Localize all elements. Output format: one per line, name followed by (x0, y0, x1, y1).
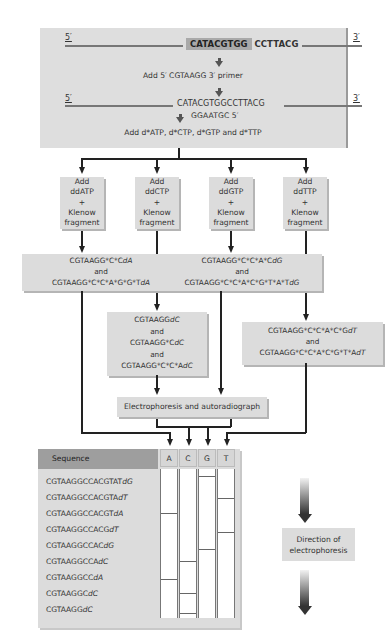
reaction-text: Add (283, 177, 327, 187)
template-strand-right (302, 45, 362, 47)
reaction-box-ddatp: Add ddATP + Klenow fragment (60, 177, 104, 229)
lane-t (217, 469, 235, 618)
direction-label: electrophoresis (289, 545, 347, 556)
down-arrow-icon (176, 117, 184, 123)
lane-g (198, 469, 216, 618)
and-label: and (162, 266, 322, 277)
template-panel: 5′ CATACGTGG CCTTACG 3′ Add 5′ CGTAAGG 3… (40, 28, 346, 148)
template-strand-right (284, 105, 362, 107)
band (180, 593, 196, 594)
lane-header-t: T (217, 449, 235, 467)
lane-c (179, 469, 197, 618)
sequence-header: Sequence (38, 449, 158, 469)
lane-a (160, 469, 178, 618)
down-arrow-icon (215, 61, 223, 67)
products-g-box: CGTAAGG*C*C*A*CdG and CGTAAGG*C*C*A*C*G*… (162, 254, 322, 291)
reaction-box-ddgtp: Add ddGTP + Klenow fragment (209, 177, 253, 229)
arrowhead-icon (205, 439, 211, 446)
arrowhead-icon (303, 314, 309, 321)
band (218, 498, 234, 499)
gel-sequence-row: CGTAAGGCCACGTdA (46, 509, 123, 518)
reaction-text: + (209, 198, 253, 208)
direction-arrow-shaft (300, 570, 309, 606)
direction-arrow-shaft (300, 478, 309, 514)
reaction-text: ddATP (60, 187, 104, 197)
reaction-text: fragment (283, 218, 327, 228)
reaction-text: + (60, 198, 104, 208)
product-g-1: CGTAAGG*C*C*A*CdG (162, 255, 322, 266)
direction-label: Direction of (289, 534, 347, 545)
and-label: and (22, 266, 180, 277)
arrowhead-icon (186, 439, 192, 446)
add-primer-step: Add 5′ CGTAAGG 3′ primer (40, 71, 346, 80)
reaction-text: ddCTP (135, 187, 179, 197)
products-c-box: CGTAAGGdC and CGTAAGG*CdC and CGTAAGG*C*… (107, 312, 207, 376)
gel-sequence-row: CGTAAGGCCdA (46, 573, 103, 582)
product-a-1: CGTAAGG*C*CdA (22, 255, 180, 266)
connector-line (188, 426, 190, 440)
arrowhead-icon (228, 167, 234, 174)
product-g-2: CGTAAGG*C*C*A*C*G*T*A*TdG (162, 277, 322, 288)
band (161, 579, 177, 580)
connector-line (81, 291, 83, 433)
five-prime-label: 5′ (65, 33, 72, 42)
reaction-text: Klenow (60, 208, 104, 218)
gel-sequence-row: CGTAAGGdC (46, 605, 93, 614)
highlighted-sequence: CATACGTGG (186, 38, 252, 50)
reaction-text: Klenow (135, 208, 179, 218)
connector-line (81, 231, 83, 247)
band (180, 613, 196, 614)
reaction-text: fragment (135, 218, 179, 228)
arrowhead-icon (228, 246, 234, 253)
gel-sequence-row: CGTAAGGCCACdG (46, 541, 114, 550)
connector-line (156, 375, 158, 389)
products-a-box: CGTAAGG*C*CdA and CGTAAGG*C*C*A*G*G*TdA (22, 254, 180, 291)
gel-sequence-row: CGTAAGGCCACGTAdT (46, 493, 127, 502)
lane-header-a: A (160, 449, 178, 467)
band (199, 476, 215, 477)
lane-header-g: G (198, 449, 216, 467)
band (218, 532, 234, 533)
connector-line (305, 363, 307, 433)
arrowhead-icon (167, 439, 173, 446)
three-prime-label: 3′ (353, 94, 360, 103)
reaction-text: fragment (60, 218, 104, 228)
connector-line (226, 432, 306, 434)
sequence-header-label: Sequence (52, 454, 89, 463)
five-prime-label: 5′ (65, 94, 72, 103)
product-c-2: CGTAAGG*CdC (107, 337, 207, 349)
direction-label-box: Direction of electrophoresis (282, 528, 355, 561)
gel-sequence-row: CGTAAGGCCACGdT (46, 525, 119, 534)
arrowhead-icon (79, 167, 85, 174)
gel-sequence-row: CGTAAGGCCACGTATdG (46, 477, 133, 486)
reaction-box-ddttp: Add ddTTP + Klenow fragment (283, 177, 327, 229)
product-t-2: CGTAAGG*C*C*A*C*G*T*AdT (242, 347, 383, 358)
sequencing-gel: Sequence A C G T CGTAAGGCCACGTATdG CGTAA… (38, 449, 240, 628)
reaction-text: ddTTP (283, 187, 327, 197)
arrowhead-icon (154, 304, 160, 311)
arrowhead-icon (303, 167, 309, 174)
reaction-box-ddctp: Add ddCTP + Klenow fragment (135, 177, 179, 229)
down-arrow-icon (298, 514, 312, 523)
and-label: and (107, 349, 207, 361)
annealed-template: CATACGTGGCCTTACG (177, 99, 265, 108)
arrowhead-icon (154, 388, 160, 395)
reaction-text: fragment (209, 218, 253, 228)
reaction-text: Klenow (283, 208, 327, 218)
product-c-1: CGTAAGGdC (107, 314, 207, 326)
product-a-2: CGTAAGG*C*C*A*G*G*TdA (22, 277, 180, 288)
connector-line (156, 426, 231, 428)
connector-line (220, 291, 222, 389)
arrowhead-icon (224, 439, 230, 446)
reaction-text: Add (209, 177, 253, 187)
template-sequence: CATACGTGG CCTTACG (186, 39, 299, 49)
connector-line (230, 419, 232, 427)
primer-sequence: GGAATGC 5′ (191, 111, 239, 120)
reaction-text: Add (60, 177, 104, 187)
connector-line (178, 148, 180, 158)
reaction-text: + (283, 198, 327, 208)
add-dntps-step: Add d*ATP, d*CTP, d*GTP and d*TTP (40, 128, 346, 137)
and-label: and (242, 336, 383, 347)
connector-line (207, 426, 209, 440)
arrowhead-icon (218, 388, 224, 395)
